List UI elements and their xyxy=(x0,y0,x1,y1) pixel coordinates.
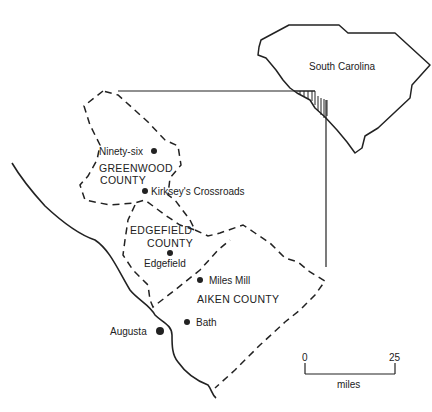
greenwood-county-label: GREENWOOD xyxy=(99,162,173,174)
south-carolina-label: South Carolina xyxy=(309,61,376,72)
greenwood-county-boundary xyxy=(80,91,195,230)
miles-mill-label: Miles Mill xyxy=(209,275,250,286)
kirkseys-crossroads-marker xyxy=(142,188,148,194)
scale-max-label: 25 xyxy=(389,352,401,363)
edgefield-county-label: EDGEFIELD xyxy=(130,224,192,236)
edgefield-label: Edgefield xyxy=(144,258,186,269)
ninety-six-marker xyxy=(151,148,157,154)
augusta-marker xyxy=(156,327,164,335)
south-carolina-outline xyxy=(258,25,430,153)
edgefield-county-label-2: COUNTY xyxy=(147,237,193,249)
scale-unit-label: miles xyxy=(337,379,360,390)
greenwood-county-label-2: COUNTY xyxy=(100,174,146,186)
map-canvas: 0 25 miles South Carolina GREENWOOD COUN… xyxy=(0,0,432,412)
edgefield-marker xyxy=(167,250,173,256)
scale-min-label: 0 xyxy=(302,352,308,363)
kirkseys-crossroads-label: Kirksey's Crossroads xyxy=(151,186,245,197)
bath-label: Bath xyxy=(196,317,217,328)
scale-bar xyxy=(305,363,395,374)
aiken-county-label: AIKEN COUNTY xyxy=(197,293,279,305)
savannah-river xyxy=(12,163,216,398)
edgefield-county-boundary xyxy=(123,205,230,307)
bath-marker xyxy=(184,319,190,325)
augusta-label: Augusta xyxy=(110,326,147,337)
ninety-six-label: Ninety-six xyxy=(99,146,143,157)
miles-mill-marker xyxy=(197,277,203,283)
